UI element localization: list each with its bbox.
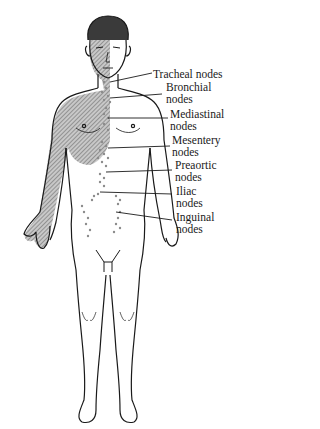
label-inguinal-nodes: Inguinal nodes <box>176 211 214 235</box>
label-line: Mesentery <box>172 134 221 146</box>
label-line: nodes <box>166 93 211 105</box>
label-line: Bronchial <box>166 81 211 93</box>
label-line: nodes <box>170 120 224 132</box>
label-mesentery-nodes: Mesentery nodes <box>172 134 221 158</box>
label-line: nodes <box>176 223 214 235</box>
label-line: nodes <box>175 171 217 183</box>
label-line: Iliac <box>176 185 203 197</box>
label-mediastinal-nodes: Mediastinal nodes <box>170 108 224 132</box>
leader-lines <box>100 73 172 220</box>
label-line: Mediastinal <box>170 108 224 120</box>
label-line: Preaortic <box>175 159 217 171</box>
label-line: Tracheal nodes <box>153 68 223 80</box>
label-preaortic-nodes: Preaortic nodes <box>175 159 217 183</box>
label-tracheal-nodes: Tracheal nodes <box>153 68 223 80</box>
label-line: nodes <box>172 146 221 158</box>
label-line: nodes <box>176 197 203 209</box>
label-iliac-nodes: Iliac nodes <box>176 185 203 209</box>
label-line: Inguinal <box>176 211 214 223</box>
label-bronchial-nodes: Bronchial nodes <box>166 81 211 105</box>
